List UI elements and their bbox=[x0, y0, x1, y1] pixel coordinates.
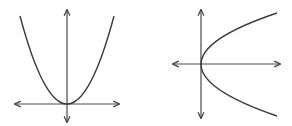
graphs-canvas bbox=[0, 0, 292, 126]
graph-parabola-up bbox=[15, 10, 119, 122]
graph-parabola-right bbox=[173, 10, 280, 118]
